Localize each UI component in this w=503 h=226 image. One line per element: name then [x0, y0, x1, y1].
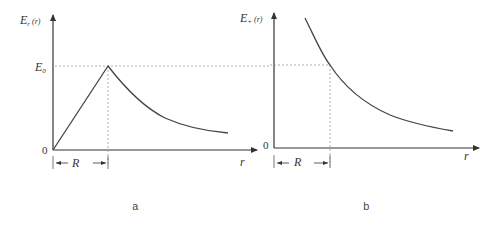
- x-axis-label: r: [240, 155, 245, 169]
- field-curve: [305, 18, 453, 131]
- r-label: R: [293, 155, 302, 169]
- origin-label: 0: [42, 144, 48, 156]
- origin-label: 0: [263, 139, 269, 151]
- caption-a: a: [132, 201, 139, 213]
- figure-canvas: Er(r) E0 0 r R a E+(r) 0 r R b: [0, 0, 503, 226]
- e0-label: E0: [34, 60, 46, 75]
- r-label: R: [71, 156, 80, 170]
- panel-b: E+(r) 0 r R b: [239, 11, 479, 213]
- r-dimension: R: [53, 156, 108, 170]
- y-axis-label: E+(r): [239, 11, 263, 26]
- field-curve: [53, 66, 228, 150]
- r-dimension: R: [274, 155, 330, 169]
- panel-a: Er(r) E0 0 r R a: [19, 13, 270, 213]
- y-axis-label: Er(r): [19, 13, 41, 28]
- x-axis-label: r: [464, 149, 469, 163]
- caption-b: b: [363, 201, 370, 213]
